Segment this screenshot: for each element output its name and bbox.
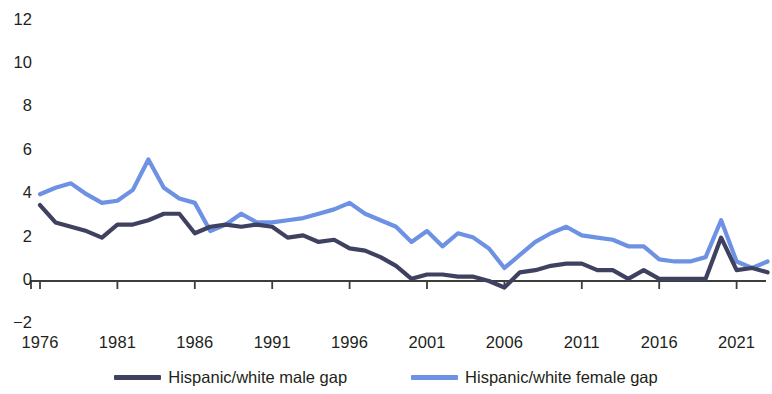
y-axis-tick-label: 4 [0,183,32,202]
x-axis-tick-label: 1991 [244,333,300,352]
x-axis-tick-label: 2021 [709,333,765,352]
line-chart: 121086420−2 1976198119861991199620012006… [0,0,772,394]
x-axis-tick-label: 2016 [631,333,687,352]
series-line-male-gap [40,205,768,287]
legend-label: Hispanic/white female gap [465,368,658,387]
x-axis-tick-label: 1981 [89,333,145,352]
y-axis-tick-label: 12 [0,10,32,29]
y-axis-tick-label: 8 [0,96,32,115]
x-axis-tick-label: 1976 [12,333,68,352]
y-axis-tick-label: 10 [0,53,32,72]
legend-label: Hispanic/white male gap [168,368,347,387]
chart-legend: Hispanic/white male gapHispanic/white fe… [0,362,772,392]
series-line-female-gap [40,159,768,268]
x-axis-tick-label: 1986 [167,333,223,352]
y-axis-tick-label: −2 [0,313,32,332]
legend-item-female-gap[interactable]: Hispanic/white female gap [411,368,658,387]
y-axis-tick-label: 0 [0,270,32,289]
x-axis-tick-label: 2011 [554,333,610,352]
y-axis-tick-label: 6 [0,140,32,159]
y-axis-tick-label: 2 [0,227,32,246]
x-axis-tick-label: 2001 [399,333,455,352]
x-axis-tick-label: 2006 [476,333,532,352]
series-group [40,159,768,287]
axis-group [31,281,766,289]
legend-item-male-gap[interactable]: Hispanic/white male gap [114,368,347,387]
legend-swatch-icon [411,375,458,380]
legend-swatch-icon [114,375,161,380]
x-axis-tick-label: 1996 [322,333,378,352]
